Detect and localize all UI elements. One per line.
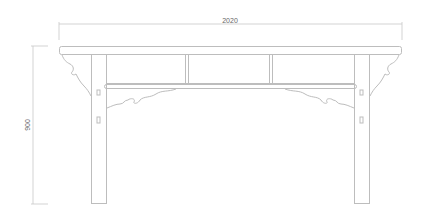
left-leg [92,55,107,204]
right-leg-tenon-upper [360,90,363,95]
left-leg-tenon-upper [97,90,100,95]
right-leg [355,55,370,204]
table-elevation-drawing: 2020 900 [0,0,428,220]
right-apron-carving [285,89,354,108]
left-corner-bracket [62,55,91,96]
height-dimension: 900 [24,46,48,204]
right-leg-tenon-lower [360,117,363,123]
left-apron-carving [107,89,176,108]
lower-rail [105,85,357,89]
width-dimension-label: 2020 [222,17,238,24]
height-dimension-label: 900 [24,119,31,131]
width-dimension: 2020 [59,17,402,40]
apron [105,55,357,89]
right-corner-bracket [370,55,399,96]
left-leg-tenon-lower [97,117,100,123]
table-top [60,47,402,55]
